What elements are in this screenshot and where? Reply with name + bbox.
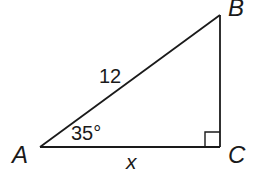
vertex-label-a: A	[10, 141, 28, 168]
triangle-diagram: A B C 12 x 35°	[0, 0, 258, 180]
angle-a-label: 35°	[71, 122, 101, 144]
side-ab-hypotenuse	[40, 15, 220, 147]
hypotenuse-length-label: 12	[99, 65, 121, 87]
right-angle-marker	[205, 132, 220, 147]
adjacent-side-variable-label: x	[125, 150, 138, 173]
vertex-label-b: B	[228, 0, 244, 21]
vertex-label-c: C	[228, 141, 246, 168]
